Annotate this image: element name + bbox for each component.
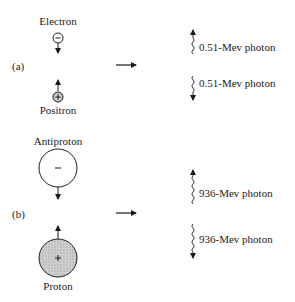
photon-label-a-2: 0.51-Mev photon bbox=[199, 77, 275, 89]
photon-label-b-2: 936-Mev photon bbox=[199, 233, 273, 245]
panel-a bbox=[53, 30, 194, 102]
photon-down-b-icon bbox=[192, 224, 195, 258]
panel-b bbox=[39, 149, 194, 277]
photon-up-b-icon bbox=[192, 170, 195, 204]
electron-label: Electron bbox=[39, 15, 76, 27]
proton-label: Proton bbox=[43, 280, 72, 292]
panel-b-tag: (b) bbox=[12, 208, 25, 220]
photon-label-b-1: 936-Mev photon bbox=[199, 187, 273, 199]
panel-a-tag: (a) bbox=[12, 60, 24, 72]
photon-up-a-icon bbox=[192, 30, 195, 54]
positron-label: Positron bbox=[40, 104, 77, 116]
antiproton-label: Antiproton bbox=[34, 135, 82, 147]
photon-down-a-icon bbox=[192, 76, 195, 100]
photon-label-a-1: 0.51-Mev photon bbox=[199, 41, 275, 53]
